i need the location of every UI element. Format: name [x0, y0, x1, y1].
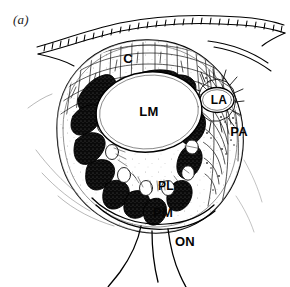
eye-cross-section-drawing	[0, 0, 290, 287]
label-photoreceptor-layer: PL	[158, 180, 174, 192]
label-pigmented-accessory: PA	[230, 125, 248, 138]
label-optic-nerve: ON	[175, 235, 195, 248]
label-pigmented-membrane: PM	[153, 206, 173, 219]
label-cornea: C	[123, 52, 133, 65]
exterior-connective-sweeps-right	[236, 160, 262, 232]
label-lens-main: LM	[139, 105, 158, 118]
label-lens-accessory: LA	[211, 94, 228, 106]
figure-panel: (a)	[0, 0, 290, 287]
